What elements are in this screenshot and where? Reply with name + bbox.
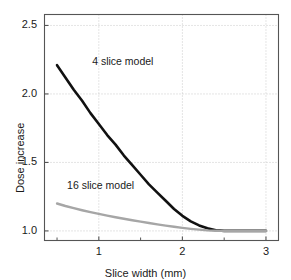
y-axis-title: Dose increase (14, 123, 26, 193)
y-tick-label: 2.5 (3, 18, 37, 30)
x-axis-title: Slice width (mm) (0, 267, 291, 279)
y-tick-label: 2.0 (3, 87, 37, 99)
grid-lines (45, 15, 279, 241)
x-tick-label: 2 (170, 245, 194, 257)
axis-frame (45, 15, 279, 241)
data-series (57, 65, 266, 231)
series-line-1 (57, 204, 266, 231)
series-label-0: 4 slice model (92, 55, 153, 67)
chart-plot-area (0, 0, 291, 280)
series-label-1: 16 slice model (67, 179, 134, 191)
x-tick-label: 3 (254, 245, 278, 257)
x-tick-label: 1 (87, 245, 111, 257)
y-tick-label: 1.0 (3, 224, 37, 236)
series-line-0 (57, 65, 266, 231)
chart-figure: 1.01.52.02.5 123 4 slice model16 slice m… (0, 0, 291, 280)
